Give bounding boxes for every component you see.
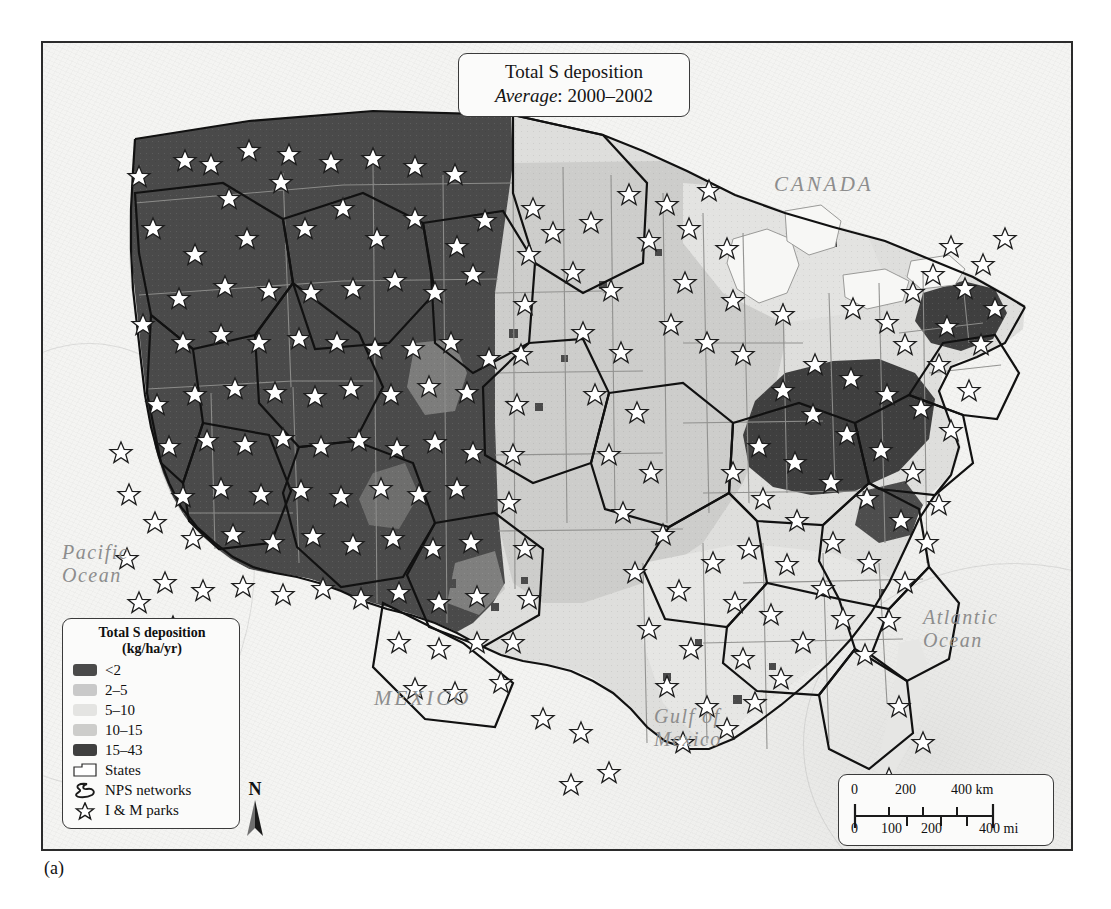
scale-km-tick-200: 200 (895, 782, 916, 798)
scale-km-tick-0: 0 (851, 782, 858, 798)
legend-class-row: 2–5 (73, 680, 231, 700)
park-star-group (110, 140, 1016, 812)
map-subtitle-sep: : (557, 85, 567, 106)
map-subtitle-label: Average (495, 85, 557, 106)
legend-swatch-15-43 (73, 744, 97, 756)
geo-label-pacific-ocean: Pacific Ocean (62, 541, 129, 587)
geo-label-gulf-line1: Gulf of (654, 705, 722, 728)
legend-class-row: 15–43 (73, 740, 231, 760)
legend-swatch-5-10 (73, 704, 97, 716)
north-arrow: N (238, 780, 272, 838)
geo-label-pacific-line2: Ocean (62, 564, 129, 587)
legend-label-lt2: <2 (105, 662, 121, 679)
geo-label-atlantic-ocean: Atlantic Ocean (923, 606, 998, 652)
geo-label-pacific-line1: Pacific (62, 541, 129, 564)
legend-label-im-parks: I & M parks (105, 802, 179, 819)
scale-bar: 0 200 400 km 0 100 200 400 mi (838, 774, 1054, 846)
figure-caption: (a) (44, 858, 64, 879)
map-title-box: Total S deposition Average: 2000–2002 (458, 53, 690, 117)
geo-label-gulf-of-mexico: Gulf of Mexico (654, 705, 722, 751)
geo-label-canada-line1: CANADA (774, 172, 874, 196)
legend-label-10-15: 10–15 (105, 722, 143, 739)
legend-label-nps-networks: NPS networks (105, 782, 191, 799)
scale-mi-tick-0: 0 (851, 821, 858, 837)
legend-swatch-2-5 (73, 684, 97, 696)
legend-swatch-10-15 (73, 724, 97, 736)
legend-swatch-lt2 (73, 664, 97, 676)
states-outline-icon (73, 763, 97, 777)
legend-unit: (kg/ha/yr) (73, 641, 231, 657)
geo-label-atlantic-line2: Ocean (923, 629, 998, 652)
legend-class-row: 5–10 (73, 700, 231, 720)
map-subtitle-value: 2000–2002 (567, 85, 653, 106)
nps-networks-icon (73, 782, 97, 799)
legend-symbol-row: NPS networks (73, 780, 231, 800)
im-parks-star-icon (73, 802, 97, 819)
legend-symbol-row: I & M parks (73, 800, 231, 820)
map-subtitle: Average: 2000–2002 (463, 84, 685, 108)
legend-class-row: <2 (73, 660, 231, 680)
north-arrow-icon (238, 798, 272, 838)
geo-label-atlantic-line1: Atlantic (923, 606, 998, 629)
geo-label-mexico-line1: MEXICO (374, 686, 471, 710)
scale-km-tick-400: 400 km (951, 782, 993, 798)
scale-mi-tick-400: 400 mi (979, 821, 1018, 837)
map-legend: Total S deposition (kg/ha/yr) <2 2–5 5–1… (62, 618, 240, 829)
map-figure: CANADA MEXICO Pacific Ocean Atlantic Oce… (41, 41, 1073, 851)
scale-mi-tick-100: 100 (881, 821, 902, 837)
geo-label-gulf-line2: Mexico (654, 728, 722, 751)
legend-label-15-43: 15–43 (105, 742, 143, 759)
legend-class-row: 10–15 (73, 720, 231, 740)
scale-mi-tick-200: 200 (921, 821, 942, 837)
north-arrow-label: N (238, 780, 272, 798)
legend-symbol-row: States (73, 760, 231, 780)
geo-label-canada: CANADA (774, 172, 874, 196)
legend-label-states: States (105, 762, 141, 779)
legend-label-5-10: 5–10 (105, 702, 135, 719)
map-title: Total S deposition (463, 60, 685, 84)
legend-title: Total S deposition (73, 625, 231, 641)
legend-label-2-5: 2–5 (105, 682, 128, 699)
geo-label-mexico: MEXICO (374, 686, 471, 710)
